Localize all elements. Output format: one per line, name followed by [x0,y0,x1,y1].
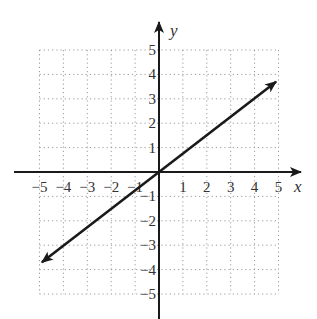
y-tick-label: 5 [149,42,157,58]
y-tick-label: 1 [149,140,157,156]
y-tick-label: −5 [140,286,156,302]
y-tick-label: −4 [140,262,156,278]
y-tick-label: −1 [140,188,156,204]
x-tick-label: −2 [103,179,119,195]
x-tick-label: 2 [203,179,211,195]
y-tick-label: −2 [140,213,156,229]
y-tick-label: 4 [149,66,157,82]
y-tick-label: 3 [149,91,157,107]
axes [14,22,301,319]
x-tick-label: −4 [55,179,71,195]
coordinate-plane: −5−4−3−2−11234554321−1−2−3−4−5 x y [0,0,317,319]
x-tick-label: −3 [79,179,95,195]
x-tick-label: 1 [179,179,187,195]
y-axis-label: y [168,21,178,40]
y-tick-label: −3 [140,237,156,253]
y-tick-label: 2 [149,115,157,131]
x-tick-label: 3 [227,179,235,195]
x-tick-label: 4 [251,179,259,195]
x-tick-label: 5 [275,179,283,195]
x-tick-label: −5 [32,179,48,195]
x-axis-label: x [293,177,302,196]
